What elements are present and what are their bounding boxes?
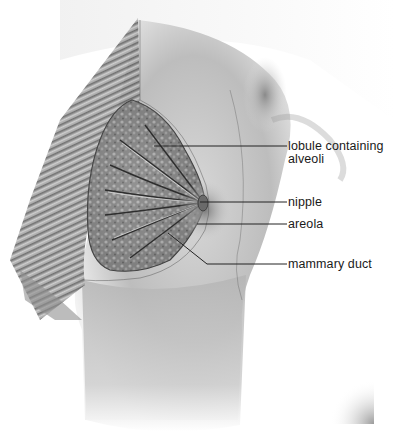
breast-illustration xyxy=(0,0,394,446)
armpit-shade xyxy=(243,57,287,133)
lower-torso xyxy=(82,275,246,431)
label-lobule: lobule containing alveoli xyxy=(288,140,384,166)
nipple-shape xyxy=(198,195,208,211)
label-areola: areola xyxy=(288,218,323,231)
label-nipple: nipple xyxy=(288,196,322,209)
anatomy-figure: lobule containing alveoli nipple areola … xyxy=(0,0,394,446)
corner-shade xyxy=(330,380,374,424)
label-mammary-duct: mammary duct xyxy=(288,258,372,271)
label-lobule-line2: alveoli xyxy=(288,153,384,166)
